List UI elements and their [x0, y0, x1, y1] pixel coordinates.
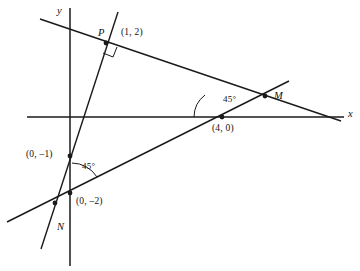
label-0-neg2: (0, –2): [76, 197, 103, 207]
geometry-figure: y x P (1, 2) M N (4, 0) (0, –1) (0, –2) …: [0, 0, 360, 271]
y-axis-label: y: [57, 6, 62, 17]
geometry-canvas: [0, 0, 360, 271]
points-group: [53, 41, 268, 206]
angle-label-45-at-0-neg2: 45°: [82, 162, 95, 171]
lines-group: [7, 12, 341, 249]
point-0-neg1: [68, 154, 73, 159]
x-axis-label: x: [348, 109, 353, 120]
point-M: [263, 94, 268, 99]
label-0-neg1: (0, –1): [26, 150, 53, 160]
label-4-0: (4, 0): [212, 124, 234, 134]
angle-arc-at-4-0: [194, 95, 205, 117]
point-4-0: [220, 115, 225, 120]
label-N: N: [57, 222, 64, 233]
axes-group: [27, 8, 344, 266]
line-P-M: [40, 19, 341, 121]
point-N: [53, 201, 58, 206]
line-P-N: [41, 12, 118, 249]
label-P-coords: (1, 2): [121, 28, 143, 38]
label-P: P: [98, 28, 105, 39]
angle-label-45-at-4-0: 45°: [223, 95, 236, 104]
point-P: [104, 41, 109, 46]
label-M: M: [274, 91, 283, 102]
point-0-neg2: [68, 191, 73, 196]
